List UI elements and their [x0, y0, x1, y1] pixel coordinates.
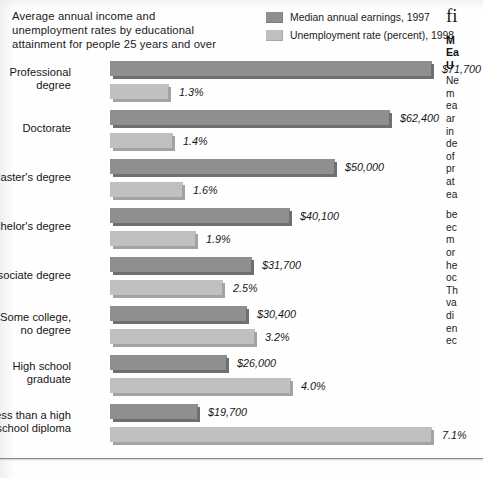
category-label: Some college,no degree — [0, 311, 71, 338]
unemployment-value-label: 1.6% — [193, 184, 218, 196]
chart-title: Average annual income and unemployment r… — [12, 9, 262, 52]
sidebar-body-line: Ne — [446, 75, 483, 88]
bar-group: High schoolgraduate$26,0004.0% — [0, 352, 445, 401]
earnings-bar-wrapper: $30,400 — [110, 306, 247, 321]
sidebar-body-line: en — [446, 323, 483, 336]
earnings-value-label: $40,100 — [300, 210, 339, 222]
sidebar-heading-line: Ea — [446, 46, 483, 58]
unemployment-value-label: 2.5% — [233, 282, 258, 294]
legend-label-unemployment: Unemployment rate (percent), 1998 — [290, 30, 454, 41]
category-label: Doctorate — [0, 122, 71, 135]
category-label-line-1: Bachelor's degree — [0, 220, 71, 233]
sidebar-body-text: NemeaarindeofprateabeecmorheocThvadienec — [446, 75, 483, 347]
sidebar-body-line: oc — [446, 272, 483, 285]
earnings-bar[interactable]: $71,700 — [110, 61, 432, 76]
sidebar-body-line: of — [446, 151, 483, 164]
earnings-bar-wrapper: $50,000 — [110, 159, 335, 174]
earnings-swatch-icon — [266, 12, 283, 23]
sidebar-paragraph: beecmorheocThvadienec — [446, 209, 483, 348]
sidebar-body-line: m — [446, 88, 483, 101]
earnings-bar[interactable]: $26,000 — [110, 355, 227, 370]
sidebar-article-column: fi MEaU NemeaarindeofprateabeecmorheocTh… — [446, 6, 483, 446]
earnings-bar[interactable]: $19,700 — [110, 404, 198, 419]
unemployment-bar[interactable]: 7.1% — [110, 427, 432, 442]
unemployment-bar[interactable]: 1.6% — [110, 182, 183, 197]
sidebar-body-line: va — [446, 297, 483, 310]
sidebar-body-line: ar — [446, 113, 483, 126]
sidebar-body-line: ea — [446, 189, 483, 202]
category-label-line-1: Less than a high — [0, 409, 71, 422]
unemployment-value-label: 4.0% — [301, 380, 326, 392]
earnings-bar[interactable]: $50,000 — [110, 159, 335, 174]
earnings-bar-wrapper: $31,700 — [110, 257, 252, 272]
earnings-bar[interactable]: $31,700 — [110, 257, 252, 272]
unemployment-value-label: 1.3% — [179, 86, 204, 98]
earnings-value-label: $19,700 — [208, 406, 247, 418]
chart-legend: Median annual earnings, 1997 Unemploymen… — [266, 12, 454, 48]
earnings-bar[interactable]: $40,100 — [110, 208, 290, 223]
earnings-bar-wrapper: $26,000 — [110, 355, 227, 370]
sidebar-paragraph: Nemeaarindeofpratea — [446, 75, 483, 201]
bar-group: Professionaldegree$71,7001.3% — [0, 58, 445, 107]
sidebar-body-line: de — [446, 138, 483, 151]
sidebar-body-line: at — [446, 176, 483, 189]
earnings-value-label: $30,400 — [257, 308, 296, 320]
category-label: High schoolgraduate — [0, 360, 71, 387]
sidebar-body-line: Th — [446, 285, 483, 298]
unemployment-bar[interactable]: 2.5% — [110, 280, 223, 295]
category-label: Associate degree — [0, 269, 71, 282]
unemployment-swatch-icon — [266, 30, 283, 41]
category-label-line-2: graduate — [0, 373, 71, 386]
bar-group: Master's degree$50,0001.6% — [0, 156, 445, 205]
category-label-line-1: Professional — [0, 66, 71, 79]
earnings-value-label: $31,700 — [262, 259, 301, 271]
category-label: Master's degree — [0, 171, 71, 184]
earnings-value-label: $26,000 — [237, 357, 276, 369]
unemployment-bar-wrapper: 1.6% — [110, 182, 183, 197]
earnings-bar-wrapper: $62,400 — [110, 110, 390, 125]
unemployment-bar[interactable]: 4.0% — [110, 378, 291, 393]
earnings-bar-wrapper: $40,100 — [110, 208, 290, 223]
sidebar-heading: MEaU — [446, 34, 483, 71]
category-label: Bachelor's degree — [0, 220, 71, 233]
sidebar-heading-line: M — [446, 34, 483, 46]
unemployment-bar-wrapper: 4.0% — [110, 378, 291, 393]
legend-label-earnings: Median annual earnings, 1997 — [290, 12, 430, 23]
sidebar-body-line: ea — [446, 100, 483, 113]
unemployment-bar[interactable]: 3.2% — [110, 329, 255, 344]
sidebar-body-line: pr — [446, 163, 483, 176]
bar-group: Less than a highschool diploma$19,7007.1… — [0, 401, 445, 450]
sidebar-heading-line: U — [446, 59, 483, 71]
category-label: Less than a highschool diploma — [0, 409, 71, 436]
unemployment-value-label: 1.9% — [206, 233, 231, 245]
chart-title-line-1: Average annual income and — [12, 9, 262, 23]
unemployment-bar[interactable]: 1.9% — [110, 231, 196, 246]
earnings-bar-wrapper: $71,700 — [110, 61, 432, 76]
unemployment-value-label: 1.4% — [183, 135, 208, 147]
category-label-line-1: Some college, — [0, 311, 71, 324]
earnings-value-label: $62,400 — [400, 112, 439, 124]
sidebar-body-line: he — [446, 260, 483, 273]
unemployment-bar-wrapper: 3.2% — [110, 329, 255, 344]
sidebar-body-line: di — [446, 310, 483, 323]
sidebar-body-line: in — [446, 126, 483, 139]
sidebar-body-line: or — [446, 247, 483, 260]
unemployment-bar[interactable]: 1.3% — [110, 84, 169, 99]
chart-title-line-3: attainment for people 25 years and over — [12, 37, 262, 51]
category-label-line-1: Associate degree — [0, 269, 71, 282]
earnings-value-label: $50,000 — [345, 161, 384, 173]
category-label-line-1: Master's degree — [0, 171, 71, 184]
category-label-line-1: Doctorate — [0, 122, 71, 135]
legend-item-unemployment: Unemployment rate (percent), 1998 — [266, 30, 454, 41]
sidebar-body-line: ec — [446, 335, 483, 348]
bar-group: Associate degree$31,7002.5% — [0, 254, 445, 303]
figure-kicker: fi — [446, 6, 483, 25]
unemployment-bar-wrapper: 2.5% — [110, 280, 223, 295]
earnings-bar[interactable]: $62,400 — [110, 110, 390, 125]
category-label-line-2: school diploma — [0, 422, 71, 435]
earnings-bar[interactable]: $30,400 — [110, 306, 247, 321]
category-label-line-2: no degree — [0, 324, 71, 337]
bar-group: Bachelor's degree$40,1001.9% — [0, 205, 445, 254]
unemployment-bar[interactable]: 1.4% — [110, 133, 173, 148]
bar-group: Doctorate$62,4001.4% — [0, 107, 445, 156]
